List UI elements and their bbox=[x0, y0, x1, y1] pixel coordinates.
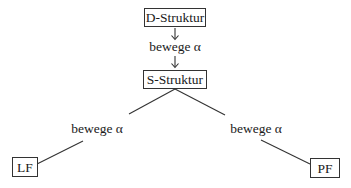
node-lf: LF bbox=[13, 158, 38, 177]
edge-label-s-to-lf: bewege α bbox=[71, 121, 123, 136]
node-pf: PF bbox=[311, 159, 340, 178]
edge-s-to-pf: bewege α bbox=[175, 89, 310, 164]
node-s-struktur-label: S-Struktur bbox=[147, 72, 204, 87]
node-lf-label: LF bbox=[17, 160, 33, 175]
node-d-struktur: D-Struktur bbox=[145, 9, 206, 27]
arrow-down-icon bbox=[172, 56, 179, 68]
edge-label-s-to-pf: bewege α bbox=[230, 121, 282, 136]
arrow-down-icon bbox=[172, 28, 179, 40]
edge-s-to-lf-lower bbox=[37, 141, 83, 164]
node-s-struktur: S-Struktur bbox=[144, 71, 207, 89]
node-pf-label: PF bbox=[317, 161, 333, 176]
edge-s-to-lf: bewege α bbox=[37, 89, 175, 164]
t-model-diagram: D-Struktur bewege α S-Struktur bewege α … bbox=[0, 0, 351, 188]
edge-s-to-pf-lower bbox=[261, 140, 310, 164]
edge-s-to-lf-upper bbox=[129, 89, 175, 114]
edge-s-to-pf-upper bbox=[175, 89, 225, 115]
edge-label-d-to-s: bewege α bbox=[149, 39, 201, 54]
node-d-struktur-label: D-Struktur bbox=[146, 10, 205, 25]
